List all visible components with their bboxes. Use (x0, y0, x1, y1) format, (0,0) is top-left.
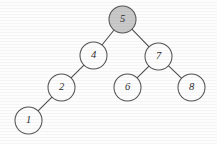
tree-diagram-canvas: 5472681 (0, 0, 217, 144)
node-label-1: 1 (26, 114, 31, 125)
node-label-8: 8 (189, 81, 195, 92)
tree-edge-5-7 (132, 29, 149, 47)
tree-edge-7-6 (137, 66, 149, 78)
tree-node-2[interactable]: 2 (48, 74, 75, 101)
tree-node-7[interactable]: 7 (145, 43, 172, 70)
tree-node-6[interactable]: 6 (114, 74, 141, 101)
tree-edge-5-4 (102, 30, 114, 45)
node-label-2: 2 (59, 81, 65, 92)
tree-node-8[interactable]: 8 (178, 74, 205, 101)
node-label-4: 4 (91, 49, 97, 60)
binary-tree-graphic: 5472681 (0, 0, 217, 144)
node-layer: 5472681 (15, 6, 205, 134)
tree-edge-4-2 (71, 65, 84, 78)
node-label-6: 6 (125, 81, 131, 92)
tree-node-4[interactable]: 4 (80, 42, 107, 69)
node-label-5: 5 (120, 13, 125, 24)
tree-edge-2-1 (38, 97, 52, 111)
tree-edge-8-8 (168, 66, 181, 79)
node-label-7: 7 (156, 50, 162, 61)
tree-node-5[interactable]: 5 (109, 6, 136, 33)
tree-node-1[interactable]: 1 (15, 107, 42, 134)
